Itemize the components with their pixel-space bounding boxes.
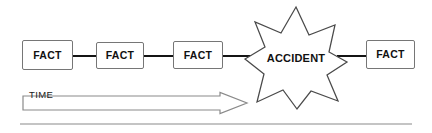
connector-fact2-fact3 (143, 55, 174, 57)
connector-fact1-fact2 (72, 55, 97, 57)
fact-node-1[interactable]: FACT (22, 40, 73, 70)
time-axis-arrow-icon (22, 92, 248, 114)
fact-node-2[interactable]: FACT (96, 42, 144, 69)
fact-node-4-label: FACT (376, 49, 405, 60)
fact-node-3-label: FACT (184, 50, 213, 61)
diagram-canvas: FACT FACT FACT ACCIDENT FACT TIME (0, 0, 432, 133)
fact-node-3[interactable]: FACT (173, 41, 223, 69)
accident-starburst-shape[interactable] (243, 5, 349, 111)
fact-node-1-label: FACT (33, 50, 62, 61)
time-axis-label-text: TIME (29, 89, 53, 100)
bottom-divider (20, 123, 412, 125)
fact-node-2-label: FACT (106, 50, 135, 61)
fact-node-4[interactable]: FACT (366, 40, 415, 69)
time-axis-label: TIME (29, 84, 53, 102)
